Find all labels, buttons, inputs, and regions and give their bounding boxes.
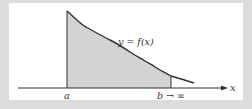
curve-label: y = f(x): [117, 36, 154, 47]
diagram-frame: y = f(x) x a b → ∞: [0, 0, 252, 109]
x-axis-arrow-icon: [221, 86, 228, 91]
x-axis-label: x: [230, 82, 236, 93]
improper-integral-diagram: y = f(x) x a b → ∞: [0, 0, 252, 109]
upper-bound-label: b → ∞: [157, 90, 185, 101]
shaded-area-region: [67, 11, 171, 88]
lower-bound-label: a: [64, 90, 70, 101]
